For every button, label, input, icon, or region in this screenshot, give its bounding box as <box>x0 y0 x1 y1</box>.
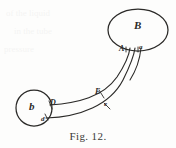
figure-caption: Fig. 12. <box>0 130 176 142</box>
tick-mark-d <box>45 114 48 120</box>
label-tube-e: e <box>104 101 107 108</box>
figure-linework <box>0 0 176 148</box>
label-tube-d: d <box>41 116 45 123</box>
label-tube-a: a <box>139 44 143 51</box>
label-tube-E: E <box>95 88 100 96</box>
tube-wall-lower <box>46 48 135 118</box>
label-tube-D: D <box>50 99 56 107</box>
label-vessel-large-B: B <box>134 20 141 31</box>
label-vessel-small-b: b <box>29 101 35 112</box>
tube-wall-upper <box>50 48 130 105</box>
tube-wall-outer <box>130 48 141 80</box>
label-tube-A: A <box>119 45 124 53</box>
figure-12-illustration: of the liquid in the tube pressure B A <box>0 0 176 148</box>
